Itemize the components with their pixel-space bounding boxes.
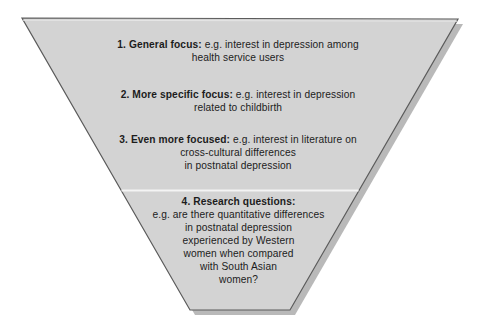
funnel-stage-1-label: 1. General focus: — [117, 39, 201, 50]
funnel-stage-1: 1. General focus: e.g. interest in depre… — [88, 38, 388, 64]
funnel-stage-list: 1. General focus: e.g. interest in depre… — [0, 0, 477, 333]
funnel-stage-3-text-line2: cross-cultural differences — [180, 147, 296, 158]
funnel-stage-4: 4. Research questions: e.g. are there qu… — [110, 195, 367, 286]
funnel-stage-4-label: 4. Research questions: — [110, 195, 367, 208]
funnel-stage-1-text-line2: health service users — [192, 52, 285, 63]
funnel-stage-4-text-line2: e.g. are there quantitative differences — [110, 208, 367, 221]
funnel-stage-4-text-line7: women? — [110, 273, 367, 286]
funnel-stage-4-text-line5: women when compared — [110, 247, 367, 260]
funnel-stage-3-label: 3. Even more focused: — [119, 134, 230, 145]
funnel-stage-4-text-line3: in postnatal depression — [110, 221, 367, 234]
funnel-stage-3-text-line3: in postnatal depression — [184, 160, 291, 171]
research-focus-funnel-figure: 1. General focus: e.g. interest in depre… — [0, 0, 477, 333]
funnel-stage-3-text-line1: e.g. interest in literature on — [230, 134, 357, 145]
funnel-stage-2-text-line1: e.g. interest in depression — [233, 89, 355, 100]
funnel-stage-3: 3. Even more focused: e.g. interest in l… — [88, 133, 388, 172]
funnel-stage-2-text-line2: related to childbirth — [194, 102, 282, 113]
funnel-stage-1-text-line1: e.g. interest in depression among — [202, 39, 359, 50]
funnel-stage-4-text-line6: with South Asian — [110, 260, 367, 273]
funnel-stage-4-text-line4: experienced by Western — [110, 234, 367, 247]
funnel-stage-2: 2. More specific focus: e.g. interest in… — [88, 88, 388, 114]
funnel-stage-2-label: 2. More specific focus: — [121, 89, 233, 100]
